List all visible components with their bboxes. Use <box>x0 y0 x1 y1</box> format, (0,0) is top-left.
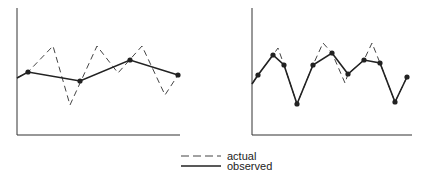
right-observed-line <box>252 53 407 104</box>
observed-point-marker <box>127 57 132 62</box>
observed-point-marker <box>270 52 275 57</box>
right-panel <box>252 8 412 135</box>
legend-observed-label: observed <box>227 160 272 172</box>
observed-point-marker <box>255 72 260 77</box>
observed-point-marker <box>404 74 409 79</box>
left-panel <box>17 8 181 135</box>
observed-point-marker <box>175 72 180 77</box>
observed-point-marker <box>25 69 30 74</box>
left-actual-line <box>17 46 178 105</box>
legend: actual observed <box>181 150 272 172</box>
observed-point-marker <box>345 71 350 76</box>
chart-figure: actual observed <box>0 0 422 178</box>
observed-point-marker <box>361 57 366 62</box>
observed-point-marker <box>281 62 286 67</box>
observed-point-marker <box>294 101 299 106</box>
observed-point-marker <box>392 99 397 104</box>
observed-point-marker <box>77 78 82 83</box>
observed-point-marker <box>377 60 382 65</box>
observed-point-marker <box>310 62 315 67</box>
observed-point-marker <box>329 50 334 55</box>
